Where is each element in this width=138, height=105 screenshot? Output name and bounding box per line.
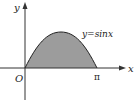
x-axis-arrow-icon	[119, 66, 126, 71]
y-axis-arrow-icon	[23, 2, 28, 9]
origin-label: O	[15, 73, 23, 84]
pi-label: π	[94, 72, 100, 82]
curve-label: y=sinx	[81, 29, 113, 39]
y-axis-label: y	[13, 2, 20, 13]
sine-area-diagram: y x O π y=sinx	[0, 0, 138, 105]
x-axis-label: x	[128, 63, 134, 74]
